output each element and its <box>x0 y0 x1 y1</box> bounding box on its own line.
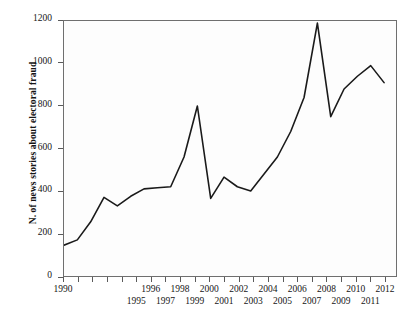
x-tick-mark <box>92 277 93 282</box>
y-tick-label: 0 <box>14 270 52 280</box>
y-tick-label: 1200 <box>14 13 52 23</box>
x-tick-mark <box>136 277 137 282</box>
x-tick-mark <box>385 277 386 282</box>
x-tick-mark <box>239 277 240 282</box>
x-tick-label: 1990 <box>43 284 83 294</box>
x-tick-mark <box>107 277 108 282</box>
x-tick-mark <box>297 277 298 282</box>
x-tick-label: 2012 <box>365 284 405 294</box>
chart-figure: N. of news stories about electoral fraud… <box>0 0 416 322</box>
x-tick-mark <box>326 277 327 282</box>
x-tick-mark <box>209 277 210 282</box>
x-tick-mark <box>356 277 357 282</box>
x-tick-mark <box>253 277 254 282</box>
y-tick-label: 200 <box>14 227 52 237</box>
x-tick-mark <box>165 277 166 282</box>
x-tick-mark <box>341 277 342 282</box>
y-tick-label: 400 <box>14 184 52 194</box>
x-tick-mark <box>151 277 152 282</box>
x-tick-mark <box>283 277 284 282</box>
x-tick-mark <box>195 277 196 282</box>
y-tick-label: 800 <box>14 99 52 109</box>
x-tick-mark <box>370 277 371 282</box>
x-tick-mark <box>312 277 313 282</box>
x-tick-mark <box>224 277 225 282</box>
x-tick-mark <box>78 277 79 282</box>
y-tick-label: 1000 <box>14 56 52 66</box>
x-tick-mark <box>268 277 269 282</box>
plot-area <box>63 20 397 277</box>
y-tick-label: 600 <box>14 142 52 152</box>
x-tick-mark <box>180 277 181 282</box>
data-line <box>64 23 384 245</box>
x-tick-mark <box>63 277 64 282</box>
line-series-svg <box>64 21 396 276</box>
x-tick-mark <box>122 277 123 282</box>
x-tick-label: 2011 <box>350 296 390 306</box>
